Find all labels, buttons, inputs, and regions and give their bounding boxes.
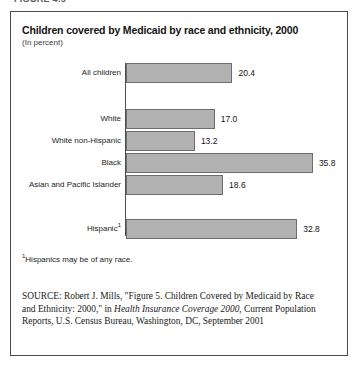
source-note: SOURCE: Robert J. Mills, "Figure 5. Chil… (22, 290, 322, 328)
source-label: SOURCE: (22, 291, 62, 301)
chart-bar-value: 18.6 (229, 175, 246, 195)
chart-bar-label: Black (11, 153, 121, 173)
chart-bar (126, 109, 215, 129)
chart-footnote: 1Hispanics may be of any race. (22, 255, 133, 264)
chart-bar-value: 32.8 (303, 219, 320, 239)
chart-bar-label: All children (11, 63, 121, 83)
chart-bar-label-footnote: 1 (118, 222, 121, 228)
chart-bar-row: All children20.4 (11, 63, 347, 83)
chart-bar-label: White non-Hispanic (11, 131, 121, 151)
chart-bar (126, 131, 195, 151)
cutoff-figure-header-label: FIGURE 4.5 (14, 0, 134, 4)
chart-bar-label: Hispanic1 (11, 219, 121, 239)
cutoff-figure-header: FIGURE 4.5 (14, 0, 134, 6)
chart-bar (126, 219, 297, 239)
chart-subtitle: (In percent) (22, 38, 339, 47)
chart-bar-value: 17.0 (221, 109, 238, 129)
chart-bar (126, 175, 223, 195)
chart-bar-label: Asian and Pacific Islander (11, 175, 121, 195)
chart-bar (126, 63, 232, 83)
chart-bar-value: 35.8 (319, 153, 336, 173)
page-title: Children covered by Medicaid by race and… (22, 24, 339, 36)
chart-bar-row: Hispanic132.8 (11, 219, 347, 239)
chart-bar-value: 13.2 (201, 131, 218, 151)
chart-bar-row: Asian and Pacific Islander18.6 (11, 175, 347, 195)
footnote-text: Hispanics may be of any race. (25, 255, 132, 264)
source-publication-title: Health Insurance Coverage 2000, (114, 304, 242, 314)
chart-bar (126, 153, 313, 173)
chart-bar-row: White17.0 (11, 109, 347, 129)
chart-bar-row: Black35.8 (11, 153, 347, 173)
chart-bar-row: White non-Hispanic13.2 (11, 131, 347, 151)
chart-plot-area: All children20.4White17.0White non-Hispa… (11, 56, 347, 241)
chart-bar-label: White (11, 109, 121, 129)
chart-bar-value: 20.4 (238, 63, 255, 83)
title-block: Children covered by Medicaid by race and… (22, 24, 339, 47)
figure-frame: Children covered by Medicaid by race and… (10, 11, 348, 356)
